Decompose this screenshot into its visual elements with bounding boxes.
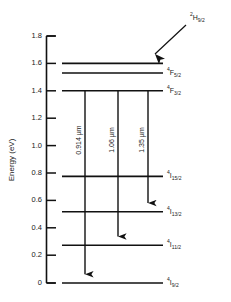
y-tick-label-0: 0 bbox=[38, 278, 42, 287]
level-label-4i112: 4I11/2 bbox=[167, 239, 181, 251]
level-label-4i92-sub: 9/2 bbox=[172, 282, 179, 288]
transition-label-135: 1.35 µm bbox=[138, 127, 146, 153]
level-label-4f32: 4F3/2 bbox=[167, 84, 181, 96]
y-axis-line bbox=[47, 36, 56, 283]
pointer-arrow-icon bbox=[155, 25, 186, 54]
y-tick-label-1-4: 1.4 bbox=[32, 86, 42, 95]
level-label-4i132: 4I13/2 bbox=[167, 205, 182, 217]
level-label-4i152: 4I15/2 bbox=[167, 170, 182, 182]
level-label-4i112-sub: 11/2 bbox=[172, 245, 182, 251]
level-labels: 2H9/2 4F5/2 4F3/2 4I15/2 4I13/2 4I11/2 4… bbox=[167, 11, 205, 288]
y-tick-label-0-8: 0.8 bbox=[32, 168, 42, 177]
level-label-2h92: 2H9/2 bbox=[190, 11, 205, 23]
energy-level-diagram: 1.8 1.6 1.4 1.2 1.0 0.8 0.6 0.4 0.2 0 En… bbox=[0, 0, 231, 302]
y-tick-label-0-2: 0.2 bbox=[32, 250, 42, 259]
transition-label-0914: 0.914 µm bbox=[75, 125, 83, 154]
y-axis-title: Energy (eV) bbox=[7, 138, 16, 181]
y-axis: 1.8 1.6 1.4 1.2 1.0 0.8 0.6 0.4 0.2 0 En… bbox=[7, 31, 56, 287]
y-tick-label-1-2: 1.2 bbox=[32, 113, 42, 122]
y-tick-label-1-8: 1.8 bbox=[32, 31, 42, 40]
level-label-2h92-sub: 9/2 bbox=[198, 17, 205, 23]
y-tick-label-0-6: 0.6 bbox=[32, 195, 42, 204]
transition-label-106: 1.06 µm bbox=[108, 127, 116, 153]
y-tick-label-1-6: 1.6 bbox=[32, 58, 42, 67]
level-label-4i92: 4I9/2 bbox=[167, 276, 179, 288]
diagram-canvas: 1.8 1.6 1.4 1.2 1.0 0.8 0.6 0.4 0.2 0 En… bbox=[0, 0, 231, 302]
level-label-4f32-sub: 3/2 bbox=[174, 90, 181, 96]
y-tick-label-1-0: 1.0 bbox=[32, 141, 42, 150]
level-label-4i132-sub: 13/2 bbox=[172, 211, 182, 217]
level-label-4f52-sub: 5/2 bbox=[174, 72, 181, 78]
level-label-4i152-sub: 15/2 bbox=[172, 176, 182, 182]
transition-arrows bbox=[85, 91, 148, 274]
y-tick-label-0-4: 0.4 bbox=[32, 223, 42, 232]
level-label-4f52: 4F5/2 bbox=[167, 66, 181, 78]
pointer-annotation-2h92 bbox=[155, 25, 186, 54]
